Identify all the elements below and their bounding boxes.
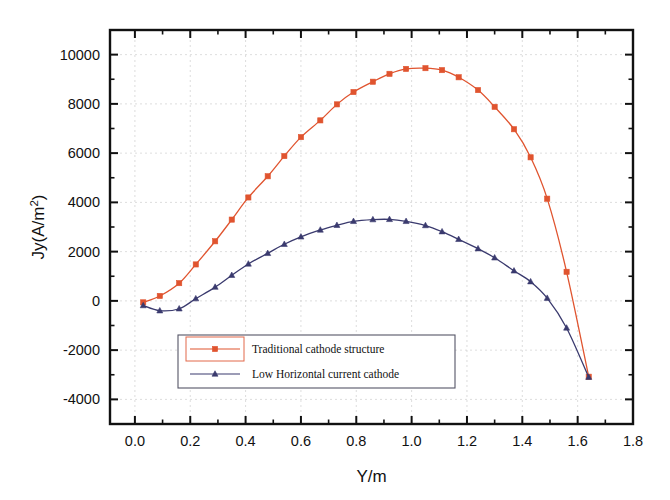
data-point-marker <box>423 66 428 71</box>
x-tick-label: 1.4 <box>512 433 532 449</box>
data-point-marker <box>157 293 162 298</box>
y-tick-label: 0 <box>92 293 100 309</box>
x-tick-label: 1.0 <box>402 433 422 449</box>
x-tick-label: 0.6 <box>291 433 311 449</box>
legend-item-label: Low Horizontal current cathode <box>252 368 399 380</box>
data-point-marker <box>246 195 251 200</box>
data-point-marker <box>475 87 480 92</box>
y-tick-label: 4000 <box>68 194 100 210</box>
data-point-marker <box>265 174 270 179</box>
line-chart-canvas: 0.00.20.40.60.81.01.21.41.61.8 -4000-200… <box>0 0 670 500</box>
y-tick-label: 2000 <box>68 244 100 260</box>
data-point-marker <box>545 196 550 201</box>
data-point-marker <box>456 75 461 80</box>
data-point-marker <box>318 118 323 123</box>
x-tick-label: 1.2 <box>457 433 477 449</box>
data-point-marker <box>564 269 569 274</box>
x-tick-label: 0.0 <box>125 433 145 449</box>
chart-figure: 0.00.20.40.60.81.01.21.41.61.8 -4000-200… <box>0 0 670 500</box>
y-tick-label: -4000 <box>63 391 100 407</box>
data-point-marker <box>177 281 182 286</box>
data-point-marker <box>351 89 356 94</box>
data-point-marker <box>370 79 375 84</box>
y-tick-label: 10000 <box>60 47 100 63</box>
x-tick-label: 0.8 <box>346 433 366 449</box>
x-tick-label: 1.6 <box>568 433 588 449</box>
data-point-marker <box>229 217 234 222</box>
data-point-marker <box>193 262 198 267</box>
data-point-marker <box>213 239 218 244</box>
data-point-marker <box>528 155 533 160</box>
data-point-marker <box>387 71 392 76</box>
y-tick-label: -2000 <box>63 342 100 358</box>
x-axis-title: Y/m <box>356 467 386 486</box>
data-point-marker <box>334 102 339 107</box>
data-point-marker <box>511 127 516 132</box>
x-tick-label: 1.8 <box>623 433 643 449</box>
legend-item-label: Traditional cathode structure <box>252 343 384 355</box>
data-point-marker <box>439 68 444 73</box>
chart-legend[interactable]: Traditional cathode structureLow Horizon… <box>178 335 455 388</box>
y-tick-label: 8000 <box>68 96 100 112</box>
y-tick-label: 6000 <box>68 145 100 161</box>
data-point-marker <box>298 135 303 140</box>
x-tick-label: 0.4 <box>236 433 256 449</box>
x-tick-label: 0.2 <box>180 433 200 449</box>
data-point-marker <box>282 153 287 158</box>
data-point-marker <box>212 346 217 351</box>
data-point-marker <box>492 104 497 109</box>
data-point-marker <box>403 66 408 71</box>
